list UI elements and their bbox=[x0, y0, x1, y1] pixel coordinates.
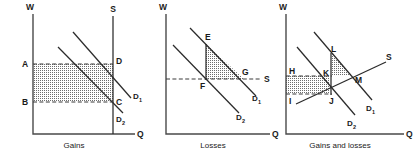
panel2-d1-subscript: 1 bbox=[258, 99, 261, 105]
panel3-y-axis-label: W bbox=[279, 2, 288, 12]
panel2-caption: Losses bbox=[200, 141, 225, 150]
panel3-point-j: J bbox=[329, 96, 334, 106]
panel3-caption: Gains and losses bbox=[309, 141, 370, 150]
economics-figure: W S Q A B C D D 1 D 2 Gains W S Q E F G … bbox=[0, 0, 414, 159]
panel2-x-axis-label: Q bbox=[272, 129, 279, 139]
panel1-point-b: B bbox=[22, 97, 28, 107]
panel3-x-axis-label: Q bbox=[406, 129, 413, 139]
panel3-point-k: K bbox=[323, 68, 330, 78]
panel1-y-axis-label: W bbox=[26, 2, 35, 12]
panel2-supply-label: S bbox=[264, 74, 270, 84]
panel2-point-f: F bbox=[200, 81, 205, 91]
panel2-point-g: G bbox=[242, 67, 249, 77]
panel3-d2-subscript: 2 bbox=[353, 124, 356, 130]
three-panel-supply-demand-diagram: W S Q A B C D D 1 D 2 Gains W S Q E F G … bbox=[0, 0, 414, 159]
panel3-d1-subscript: 1 bbox=[372, 109, 375, 115]
panel3-supply-label: S bbox=[386, 52, 392, 62]
panel1-x-axis-label: Q bbox=[137, 129, 144, 139]
panel3-point-l: L bbox=[331, 44, 336, 54]
panel1-point-c: C bbox=[116, 97, 122, 107]
panel3-point-h: H bbox=[289, 66, 295, 76]
panel3-point-i: I bbox=[289, 96, 291, 106]
panel1-d1-subscript: 1 bbox=[139, 97, 142, 103]
panel2-y-axis-label: W bbox=[159, 2, 168, 12]
panel2-d2-subscript: 2 bbox=[242, 118, 245, 124]
panel1-point-d: D bbox=[116, 56, 122, 66]
panel2-point-e: E bbox=[205, 32, 211, 42]
panel1-supply-label: S bbox=[110, 4, 116, 14]
panel1-d2-subscript: 2 bbox=[122, 120, 125, 126]
panel3-point-m: M bbox=[355, 75, 362, 85]
panel1-point-a: A bbox=[22, 59, 28, 69]
shaded-gain-rectangle bbox=[33, 64, 113, 102]
panel1-caption: Gains bbox=[64, 141, 85, 150]
